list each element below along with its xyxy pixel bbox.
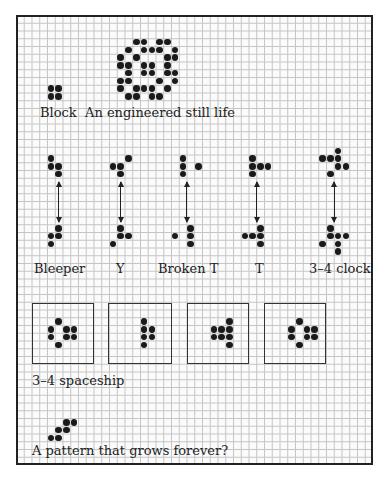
spaceship-frame-4-cell: [304, 326, 311, 333]
still-life-cell: [133, 54, 140, 61]
label-bleeper: Bleeper: [34, 262, 85, 275]
still-life-cell: [164, 62, 171, 69]
spaceship-frame-4-cell: [296, 318, 303, 325]
label-still-life: An engineered still life: [85, 106, 235, 119]
still-life-cell: [149, 93, 156, 100]
grid-paper-frame: [16, 15, 373, 465]
grows-cell: [63, 427, 70, 434]
still-life-cell: [156, 93, 163, 100]
y-phase-b-cell: [117, 225, 124, 232]
bleeper-phase-a-cell: [48, 155, 55, 162]
spaceship-frame-1-cell: [48, 326, 55, 333]
broken-t-phase-b-cell: [187, 225, 194, 232]
clock-phase-b-cell: [327, 233, 334, 240]
clock-phase-a-cell: [335, 163, 342, 170]
bleeper-phase-a-cell: [55, 163, 62, 170]
still-life-cell: [164, 70, 171, 77]
block-cell: [48, 85, 55, 92]
bleeper-arrow-icon: [58, 182, 59, 222]
spaceship-frame-3-cell: [226, 334, 233, 341]
still-life-cell: [117, 62, 124, 69]
spaceship-frame-4-cell: [288, 334, 295, 341]
y-arrow-icon: [120, 182, 121, 222]
still-life-cell: [164, 85, 171, 92]
label-clock: 3–4 clock: [309, 262, 371, 275]
still-life-cell: [149, 62, 156, 69]
bleeper-phase-a-cell: [48, 163, 55, 170]
spaceship-frame-1-cell: [71, 326, 78, 333]
t-phase-b-cell: [257, 241, 264, 248]
spaceship-frame-4-cell: [288, 326, 295, 333]
clock-phase-a-cell: [319, 155, 326, 162]
spaceship-frame-3-cell: [226, 318, 233, 325]
spaceship-frame-1-cell: [63, 326, 70, 333]
t-phase-a-cell: [249, 163, 256, 170]
spaceship-frame-2: [108, 303, 172, 364]
spaceship-frame-3: [187, 303, 249, 364]
broken-t-phase-a-cell: [195, 163, 202, 170]
spaceship-frame-3-cell: [226, 326, 233, 333]
clock-phase-a-cell: [327, 171, 334, 178]
spaceship-frame-2-cell: [141, 318, 148, 325]
label-t: T: [255, 262, 264, 275]
still-life-cell: [156, 47, 163, 54]
clock-phase-a-cell: [335, 155, 342, 162]
spaceship-frame-3-cell: [226, 342, 233, 349]
still-life-cell: [164, 39, 171, 46]
still-life-cell: [133, 93, 140, 100]
t-phase-b-cell: [257, 225, 264, 232]
spaceship-frame-4: [264, 303, 326, 364]
clock-phase-a-cell: [327, 155, 334, 162]
still-life-cell: [156, 78, 163, 85]
grows-cell: [55, 435, 62, 442]
still-life-cell: [133, 85, 140, 92]
label-grows: A pattern that grows forever?: [32, 444, 228, 457]
clock-phase-a-cell: [343, 163, 350, 170]
grows-cell: [63, 419, 70, 426]
t-phase-a-cell: [265, 163, 272, 170]
broken-t-phase-a-cell: [180, 163, 187, 170]
label-spaceship: 3–4 spaceship: [32, 374, 124, 387]
spaceship-frame-1-cell: [55, 342, 62, 349]
t-phase-b-cell: [257, 233, 264, 240]
spaceship-frame-1-cell: [63, 334, 70, 341]
spaceship-frame-4-cell: [311, 326, 318, 333]
block-cell: [55, 85, 62, 92]
bleeper-phase-b-cell: [55, 225, 62, 232]
spaceship-frame-4-cell: [296, 342, 303, 349]
t-phase-a-cell: [249, 155, 256, 162]
still-life-cell: [117, 85, 124, 92]
broken-t-phase-b-cell: [187, 241, 194, 248]
spaceship-frame-1-cell: [55, 318, 62, 325]
t-arrow-icon: [256, 182, 257, 222]
label-block: Block: [40, 106, 77, 119]
broken-t-phase-a-cell: [180, 155, 187, 162]
broken-t-arrow-icon: [186, 182, 187, 222]
label-y: Y: [116, 262, 125, 275]
still-life-cell: [141, 62, 148, 69]
spaceship-frame-1: [32, 303, 94, 364]
spaceship-frame-2-cell: [149, 326, 156, 333]
t-phase-a-cell: [257, 163, 264, 170]
spaceship-frame-2-cell: [141, 326, 148, 333]
block-cell: [48, 93, 55, 100]
still-life-cell: [125, 62, 132, 69]
block-cell: [55, 93, 62, 100]
y-phase-a-cell: [110, 163, 117, 170]
still-life-cell: [164, 54, 171, 61]
still-life-cell: [133, 39, 140, 46]
clock-phase-b-cell: [327, 225, 334, 232]
clock-phase-b-cell: [319, 241, 326, 248]
clock-arrow-icon: [334, 182, 335, 222]
y-phase-a-cell: [125, 155, 132, 162]
still-life-cell: [149, 85, 156, 92]
still-life-cell: [125, 47, 132, 54]
spaceship-frame-3-cell: [218, 326, 225, 333]
y-phase-a-cell: [117, 163, 124, 170]
label-broken-t: Broken T: [158, 262, 218, 275]
still-life-cell: [125, 93, 132, 100]
spaceship-frame-3-cell: [211, 326, 218, 333]
still-life-cell: [117, 54, 124, 61]
still-life-cell: [125, 78, 132, 85]
